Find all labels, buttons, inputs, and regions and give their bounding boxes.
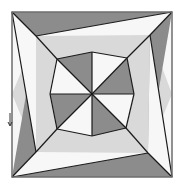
edge-marker-icon [7, 113, 13, 127]
quilt-block-figure [0, 0, 184, 186]
